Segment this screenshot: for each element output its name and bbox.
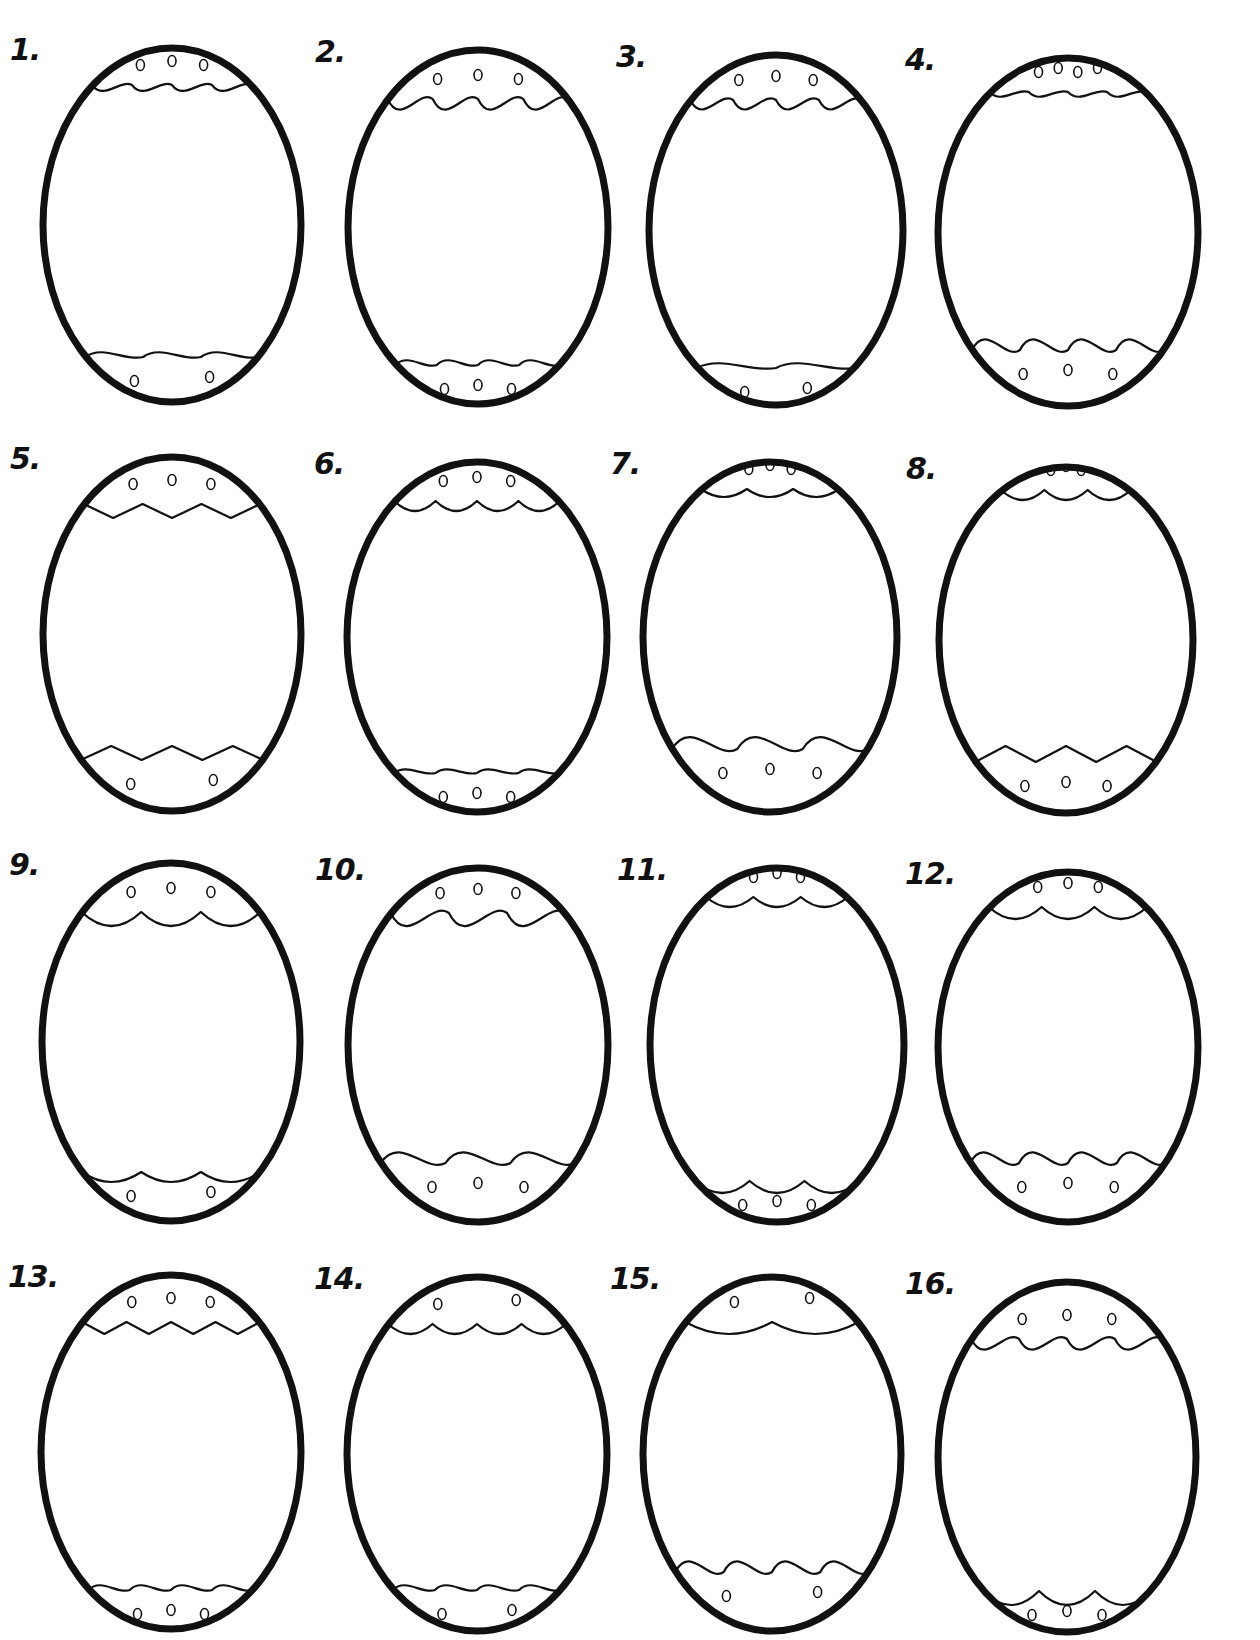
- egg-outline-icon: [334, 449, 620, 825]
- dot-icon: [127, 1191, 135, 1202]
- top-band-line: [701, 489, 839, 497]
- top-band-line: [388, 1324, 566, 1334]
- dot-icon: [1109, 369, 1117, 380]
- dot-icon: [439, 476, 447, 487]
- dot-icon: [129, 479, 137, 490]
- top-band-line: [84, 504, 261, 518]
- dot-icon: [508, 384, 516, 395]
- dot-icon: [807, 1200, 815, 1211]
- dot-icon: [474, 1178, 482, 1189]
- dot-icon: [1034, 882, 1042, 893]
- dot-icon: [434, 1299, 442, 1310]
- dot-icon: [473, 472, 481, 483]
- bottom-band-line: [972, 339, 1164, 352]
- dot-icon: [739, 1200, 747, 1211]
- egg-outline-icon: [630, 1264, 914, 1640]
- dot-icon: [1018, 1182, 1026, 1193]
- dot-icon: [1098, 1610, 1106, 1621]
- egg-shell-outline: [938, 58, 1198, 406]
- dot-icon: [508, 1605, 516, 1616]
- egg-outline-icon: [28, 1262, 314, 1640]
- dot-icon: [730, 1297, 738, 1308]
- dot-icon: [803, 383, 811, 394]
- egg-outline-icon: [29, 850, 313, 1234]
- bottom-band-line: [85, 352, 258, 358]
- dot-icon: [167, 1293, 175, 1304]
- dot-icon: [1103, 781, 1111, 792]
- dot-icon: [474, 380, 482, 391]
- dot-icon: [772, 71, 780, 82]
- egg-outline-icon: [637, 855, 917, 1235]
- dot-icon: [806, 1293, 814, 1304]
- egg-outline-icon: [926, 454, 1206, 826]
- top-band-line: [92, 84, 252, 91]
- dot-icon: [766, 764, 774, 775]
- dot-icon: [722, 1591, 730, 1602]
- top-band-line: [391, 911, 566, 926]
- bottom-band-line: [672, 737, 868, 751]
- dot-icon: [136, 60, 144, 71]
- egg-shell-outline: [643, 462, 897, 812]
- top-band-line: [388, 97, 569, 110]
- dot-icon: [512, 1295, 520, 1306]
- dot-icon: [809, 75, 817, 86]
- top-band-line: [690, 98, 862, 109]
- egg-shell-outline: [43, 48, 301, 402]
- bottom-band-line: [82, 1172, 261, 1182]
- dot-icon: [134, 1609, 142, 1620]
- egg-outline-icon: [30, 35, 314, 415]
- bottom-band-line: [983, 1591, 1151, 1605]
- top-band-line: [394, 501, 560, 511]
- dot-icon: [1054, 63, 1062, 74]
- egg-shell-outline: [347, 462, 607, 812]
- dot-icon: [128, 1297, 136, 1308]
- dot-icon: [474, 884, 482, 895]
- top-band-line: [82, 912, 261, 926]
- bottom-band-line: [81, 746, 264, 760]
- dot-icon: [1035, 67, 1043, 78]
- top-band-line: [1001, 490, 1131, 500]
- egg-outline-icon: [925, 45, 1211, 419]
- dot-icon: [719, 768, 727, 779]
- egg-outline-icon: [335, 855, 621, 1235]
- dot-icon: [428, 1182, 436, 1193]
- dot-icon: [127, 887, 135, 898]
- dot-icon: [439, 792, 447, 803]
- dot-icon: [200, 60, 208, 71]
- bottom-band-line: [975, 746, 1156, 762]
- dot-icon: [514, 74, 522, 85]
- bottom-band-line: [396, 360, 561, 366]
- dot-icon: [168, 475, 176, 486]
- dot-icon: [473, 788, 481, 799]
- dot-icon: [201, 1609, 209, 1620]
- top-band-line: [685, 1322, 858, 1334]
- egg-shell-outline: [938, 872, 1198, 1222]
- bottom-band-line: [970, 1152, 1166, 1165]
- egg-shell-outline: [43, 457, 301, 811]
- egg-shell-outline: [649, 55, 903, 405]
- top-band-line: [706, 897, 848, 907]
- top-band-line: [990, 91, 1147, 97]
- egg-outline-icon: [334, 1264, 620, 1640]
- dot-icon: [206, 1297, 214, 1308]
- dot-icon: [735, 75, 743, 86]
- dot-icon: [436, 888, 444, 899]
- egg-outline-icon: [335, 37, 621, 417]
- dot-icon: [512, 888, 520, 899]
- dot-icon: [207, 887, 215, 898]
- dot-icon: [474, 70, 482, 81]
- bottom-band-line: [381, 1152, 576, 1165]
- dot-icon: [507, 792, 515, 803]
- dot-icon: [507, 476, 515, 487]
- dot-icon: [1110, 1182, 1118, 1193]
- dot-icon: [813, 768, 821, 779]
- egg-shell-outline: [42, 863, 300, 1221]
- bottom-band-line: [675, 1561, 868, 1574]
- egg-shell-outline: [938, 1282, 1196, 1632]
- egg-outline-icon: [925, 1269, 1209, 1640]
- egg-shell-outline: [348, 50, 608, 404]
- dot-icon: [168, 56, 176, 67]
- top-band-line: [971, 1337, 1163, 1350]
- egg-shell-outline: [41, 1275, 301, 1629]
- dot-icon: [167, 1605, 175, 1616]
